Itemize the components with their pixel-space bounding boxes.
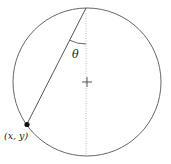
center-cross-icon bbox=[82, 77, 92, 87]
point-marker bbox=[24, 122, 29, 127]
circle-diagram: θ (x, y) bbox=[0, 0, 171, 164]
angle-arc bbox=[70, 40, 86, 44]
chord-line bbox=[27, 8, 86, 124]
angle-label: θ bbox=[72, 48, 79, 61]
point-label: (x, y) bbox=[4, 130, 28, 141]
